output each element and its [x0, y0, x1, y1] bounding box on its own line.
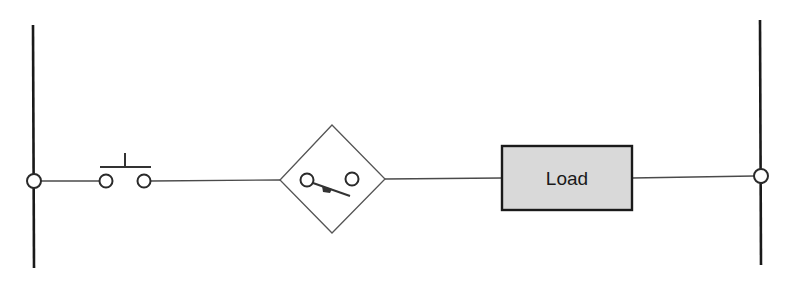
load-label: Load: [546, 168, 588, 189]
left-terminal-icon: [27, 174, 41, 188]
pushbutton-contact-left: [100, 175, 113, 188]
right-terminal-icon: [754, 169, 768, 183]
pushbutton-switch-icon: [100, 153, 152, 188]
ladder-diagram: Load: [0, 0, 794, 281]
wire-pushbutton-to-sensor: [151, 180, 280, 181]
wire-sensor-to-load: [385, 178, 502, 179]
right-power-rail: [760, 20, 761, 265]
load-component: Load: [502, 146, 632, 210]
sensor-switch-icon: [280, 125, 385, 233]
wire-load-to-rail: [632, 176, 754, 178]
left-power-rail: [33, 25, 34, 268]
pushbutton-contact-right: [138, 175, 151, 188]
sensor-diamond: [280, 125, 385, 233]
sensor-contact-left: [301, 174, 314, 187]
sensor-contact-right: [346, 173, 359, 186]
